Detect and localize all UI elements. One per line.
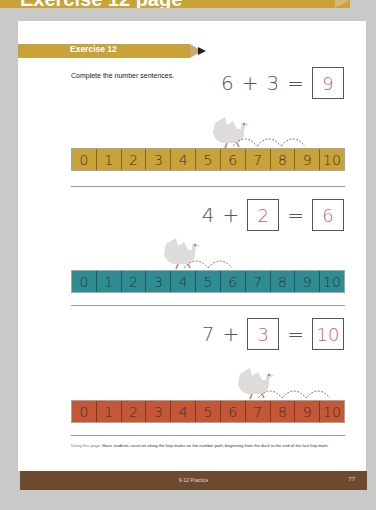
operand-b: 3 <box>267 71 280 95</box>
number-cell: 7 <box>246 401 271 422</box>
answer-box[interactable]: 6 <box>312 199 344 231</box>
hop-marks-icon <box>180 256 240 270</box>
divider <box>71 435 345 436</box>
answer-box[interactable]: 10 <box>312 318 344 350</box>
number-cell: 10 <box>320 401 344 422</box>
plus-sign: + <box>222 322 239 346</box>
number-cell: 3 <box>146 401 171 422</box>
number-cell: 10 <box>320 149 344 170</box>
number-cell: 1 <box>97 271 122 292</box>
number-cell: 8 <box>271 401 296 422</box>
divider <box>71 305 345 306</box>
equation-2: 4 + 2 = 6 <box>202 199 344 231</box>
number-path-1: 0 1 2 3 4 5 6 7 8 9 10 <box>71 148 345 171</box>
top-banner-pencil-tip <box>335 0 349 8</box>
number-cell: 6 <box>221 401 246 422</box>
number-cell: 0 <box>72 401 97 422</box>
number-cell: 5 <box>196 149 221 170</box>
plus-sign: + <box>242 71 259 95</box>
number-cell: 4 <box>171 401 196 422</box>
number-cell: 6 <box>221 149 246 170</box>
number-cell: 8 <box>271 149 296 170</box>
note-text: Have students count on along the hop mar… <box>101 443 329 448</box>
number-cell: 7 <box>246 271 271 292</box>
addend-box[interactable]: 3 <box>247 318 279 350</box>
number-cell: 4 <box>171 149 196 170</box>
number-cell: 8 <box>271 271 296 292</box>
hop-marks-icon <box>229 134 329 148</box>
addend-box[interactable]: 2 <box>247 199 279 231</box>
plus-sign: + <box>222 203 239 227</box>
number-cell: 1 <box>97 401 122 422</box>
pencil-tip-icon <box>198 47 206 55</box>
top-banner: Exercise 12 page <box>0 0 350 8</box>
number-cell: 9 <box>295 271 320 292</box>
operand-a: 7 <box>202 322 215 346</box>
operand-a: 6 <box>221 71 234 95</box>
number-cell: 9 <box>295 401 320 422</box>
worksheet-page: Exercise 12 Complete the number sentence… <box>18 21 366 471</box>
equals-sign: = <box>287 322 304 346</box>
hop-marks-icon <box>254 386 354 400</box>
number-cell: 3 <box>146 149 171 170</box>
top-banner-title: Exercise 12 page <box>20 0 182 8</box>
number-cell: 0 <box>72 271 97 292</box>
instruction-text: Complete the number sentences. <box>71 72 174 79</box>
number-cell: 6 <box>221 271 246 292</box>
number-cell: 2 <box>122 401 147 422</box>
equals-sign: = <box>287 71 304 95</box>
answer-box[interactable]: 9 <box>312 67 344 99</box>
number-cell: 4 <box>171 271 196 292</box>
number-cell: 5 <box>196 271 221 292</box>
number-cell: 0 <box>72 149 97 170</box>
exercise-title: Exercise 12 <box>70 44 117 54</box>
equation-1: 6 + 3 = 9 <box>221 67 344 99</box>
number-cell: 9 <box>295 149 320 170</box>
note-lead: Using this page: <box>71 443 101 448</box>
number-cell: 2 <box>122 149 147 170</box>
exercise-title-banner: Exercise 12 <box>18 44 190 58</box>
equation-3: 7 + 3 = 10 <box>202 318 344 350</box>
number-path-3: 0 1 2 3 4 5 6 7 8 9 10 <box>71 400 345 423</box>
number-cell: 5 <box>196 401 221 422</box>
operand-a: 4 <box>202 203 215 227</box>
page-number: 77 <box>348 476 355 482</box>
number-cell: 3 <box>146 271 171 292</box>
number-cell: 7 <box>246 149 271 170</box>
footer-section: 9-12 Practice <box>20 477 367 483</box>
number-path-2: 0 1 2 3 4 5 6 7 8 9 10 <box>71 270 345 293</box>
page-footer: 9-12 Practice 77 <box>20 471 367 490</box>
equals-sign: = <box>287 203 304 227</box>
divider <box>71 186 345 187</box>
number-cell: 2 <box>122 271 147 292</box>
teacher-note: Using this page: Have students count on … <box>71 443 351 449</box>
number-cell: 1 <box>97 149 122 170</box>
number-cell: 10 <box>320 271 344 292</box>
